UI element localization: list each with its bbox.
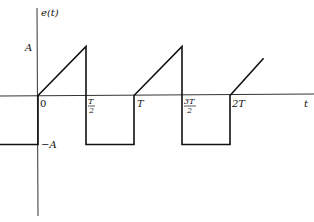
y-tick-label-A: A [24, 42, 32, 53]
x-tick-label-2T: 2T [231, 98, 246, 109]
x-tick-label-T: T [137, 98, 145, 109]
x-axis-label: t [304, 98, 309, 109]
y-axis-label: e(t) [41, 7, 59, 18]
x-tick-label-3T-half-num: 3T [184, 97, 195, 106]
x-tick-label-3T-half-den: 2 [186, 106, 192, 115]
y-tick-label-minus-A: −A [41, 139, 57, 150]
waveform-diagram: e(t) t A −A 0 T 2 T 3T 2 2T [0, 0, 314, 222]
x-tick-label-T-half-den: 2 [88, 106, 94, 115]
x-axis [0, 94, 314, 96]
x-tick-label-0: 0 [40, 98, 46, 109]
x-tick-label-T-half-num: T [88, 97, 94, 106]
